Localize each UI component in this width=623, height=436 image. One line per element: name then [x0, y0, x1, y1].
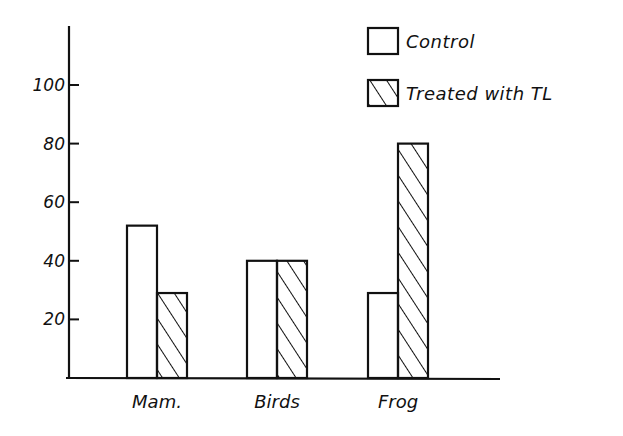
- legend: ControlTreated with TL: [368, 28, 553, 106]
- y-tick-label: 20: [43, 309, 65, 329]
- bar-frog-treated: [398, 144, 428, 378]
- y-tick-label: 100: [33, 75, 65, 95]
- bar-chart: 20406080100 Mam.BirdsFrog ControlTreated…: [0, 0, 623, 436]
- bar-birds-treated: [277, 261, 307, 378]
- legend-label-control: Control: [406, 31, 475, 52]
- x-category-label: Frog: [378, 391, 418, 412]
- y-tick-label: 40: [43, 251, 65, 271]
- bars: [127, 144, 428, 378]
- legend-swatch-control: [368, 28, 398, 54]
- bar-frog-control: [368, 293, 398, 378]
- x-category-label: Birds: [254, 391, 300, 412]
- legend-label-treated: Treated with TL: [406, 83, 553, 104]
- bar-mam-treated: [157, 293, 187, 378]
- legend-swatch-treated: [368, 80, 398, 106]
- y-axis-ticks: 20406080100: [33, 75, 79, 329]
- bar-mam-control: [127, 226, 157, 378]
- y-tick-label: 60: [43, 192, 65, 212]
- bar-birds-control: [247, 261, 277, 378]
- x-category-label: Mam.: [132, 391, 182, 412]
- x-axis-labels: Mam.BirdsFrog: [132, 391, 418, 412]
- y-tick-label: 80: [43, 134, 65, 154]
